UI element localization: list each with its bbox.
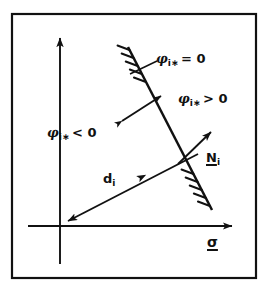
phi-subscript: i∗ xyxy=(190,98,201,108)
label-sigma: σ xyxy=(207,235,218,249)
phi-relation: = 0 xyxy=(181,51,205,66)
gradient-direction-double-arrow xyxy=(122,96,161,121)
distance-subscript: i xyxy=(112,178,115,188)
yield-line-leader xyxy=(130,61,157,74)
phi-symbol: φ xyxy=(47,125,59,140)
yield-hatching-lower xyxy=(182,170,210,207)
distance-symbol: d xyxy=(103,171,112,186)
label-distance-vector: di xyxy=(103,172,116,188)
figure-root: φi∗= 0 φi∗> 0 φi∗< 0 Ni di σ xyxy=(0,0,269,294)
normal-subscript: i xyxy=(217,157,220,167)
phi-subscript: i∗ xyxy=(168,58,179,68)
figure-frame xyxy=(12,14,256,278)
normal-symbol: N xyxy=(206,150,217,165)
phi-symbol: φ xyxy=(156,51,168,66)
label-phi-less-zero: φi∗< 0 xyxy=(47,126,97,142)
label-phi-equals-zero: φi∗= 0 xyxy=(156,52,206,68)
phi-relation: < 0 xyxy=(72,125,96,140)
label-normal-vector: Ni xyxy=(206,151,220,167)
phi-symbol: φ xyxy=(178,91,190,106)
phi-subscript: i∗ xyxy=(59,132,70,142)
sigma-symbol: σ xyxy=(207,234,218,250)
yield-hatching-upper xyxy=(118,46,146,83)
diagram-canvas xyxy=(0,0,269,294)
label-phi-greater-zero: φi∗> 0 xyxy=(178,92,228,108)
phi-relation: > 0 xyxy=(203,91,227,106)
yield-surface-line xyxy=(128,47,212,210)
